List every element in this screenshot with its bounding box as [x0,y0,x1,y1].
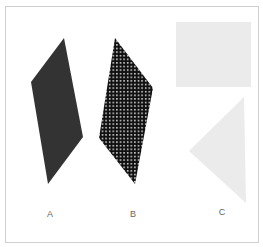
label-b: B [130,210,136,219]
shape-b-dotted-parallelogram [99,38,153,184]
shape-c-rectangle [176,22,251,87]
shape-a-dark-parallelogram [31,38,83,184]
shape-c-triangle [189,97,246,203]
label-c: C [219,208,226,217]
label-a: A [47,210,53,219]
